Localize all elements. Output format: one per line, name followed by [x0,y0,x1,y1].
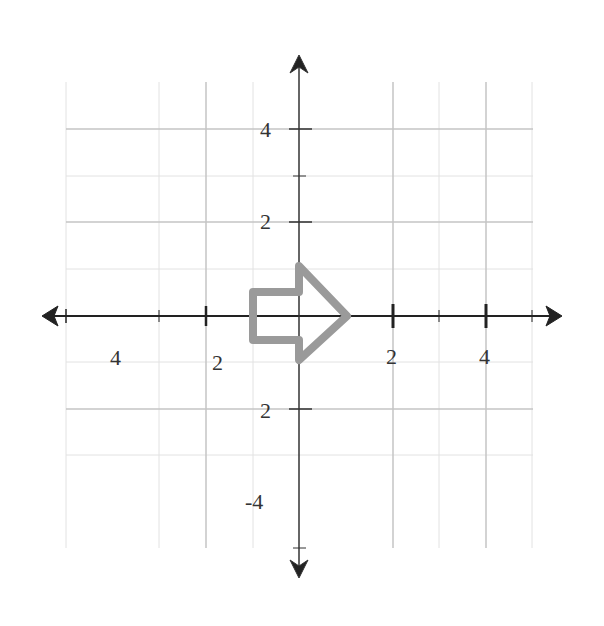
x-tick-label-4: 4 [479,346,490,368]
x-tick-label-2: 2 [386,346,397,368]
x-tick-label-neg4: 4 [110,347,121,369]
x-tick-label-neg2: 2 [212,352,223,374]
arrow-shape [253,266,347,360]
y-tick-label-neg2: 2 [260,400,271,422]
y-tick-label-neg4: -4 [245,491,263,513]
coordinate-plane: 4 2 2 4 4 2 2 -4 [0,0,604,626]
y-tick-label-2: 2 [260,211,271,233]
y-tick-label-4: 4 [260,119,271,141]
grid-graphic [0,0,604,626]
x-axis [42,304,562,328]
